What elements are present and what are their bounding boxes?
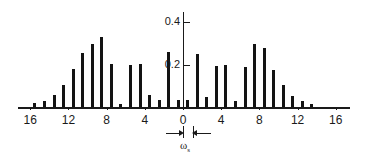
spectral-line-bar xyxy=(100,37,103,107)
x-tick-label: 12 xyxy=(55,114,81,127)
x-tick-label: 16 xyxy=(17,114,43,127)
spectral-line-bar xyxy=(72,69,75,107)
spectral-line-bar xyxy=(215,66,218,107)
x-axis-tick xyxy=(336,107,337,110)
spectral-line-bar xyxy=(224,65,227,107)
x-axis-tick xyxy=(107,107,108,110)
x-tick-label: 4 xyxy=(132,114,158,127)
spectral-line-bar xyxy=(253,44,256,107)
x-axis-tick xyxy=(259,107,260,110)
spectral-line-bar xyxy=(196,54,199,107)
spectral-line-bar xyxy=(291,96,294,107)
x-tick-label: 16 xyxy=(323,114,349,127)
omega-subscript: s xyxy=(187,146,190,154)
spectral-line-bar xyxy=(139,64,142,107)
x-tick-label: 4 xyxy=(208,114,234,127)
x-tick-label: 8 xyxy=(94,114,120,127)
spectral-line-bar xyxy=(177,100,180,107)
spectrum-chart: 1612840481216 0.20.4 ωs xyxy=(0,0,368,163)
spectral-line-bar xyxy=(53,95,56,107)
x-tick-label: 8 xyxy=(246,114,272,127)
spectral-line-bar xyxy=(272,70,275,107)
spectral-line-bar xyxy=(263,48,266,107)
omega-arrow-right-head xyxy=(192,130,197,136)
spectral-line-bar xyxy=(129,65,132,107)
plot-area: 1612840481216 0.20.4 ωs xyxy=(0,0,368,163)
y-axis-line xyxy=(183,12,184,108)
omega-arrow-right-shaft xyxy=(197,133,211,134)
spectral-line-bar xyxy=(205,97,208,107)
spectral-line-bar xyxy=(110,64,113,107)
spectral-line-bar xyxy=(244,67,247,107)
spectral-line-bar xyxy=(62,85,65,107)
y-tick-label: 0.4 xyxy=(154,16,180,27)
x-axis-tick xyxy=(298,107,299,110)
spectral-line-bar xyxy=(158,100,161,107)
x-tick-label: 12 xyxy=(285,114,311,127)
spectral-line-bar xyxy=(282,85,285,107)
y-axis-tick xyxy=(184,22,190,23)
spectral-line-bar xyxy=(91,44,94,107)
y-tick-label: 0.2 xyxy=(154,59,180,70)
x-axis-tick xyxy=(145,107,146,110)
omega-s-label: ωs xyxy=(180,139,190,154)
omega-arrow-left-shaft xyxy=(166,133,180,134)
x-axis-tick xyxy=(221,107,222,110)
y-axis-tick xyxy=(184,65,190,66)
x-axis-tick xyxy=(30,107,31,110)
x-axis-tick xyxy=(68,107,69,110)
spectral-line-bar xyxy=(81,53,84,107)
omega-arrow-left-head xyxy=(179,130,184,136)
spectral-line-bar xyxy=(186,100,189,107)
spectral-line-bar xyxy=(148,95,151,107)
x-axis-tick xyxy=(183,107,184,110)
